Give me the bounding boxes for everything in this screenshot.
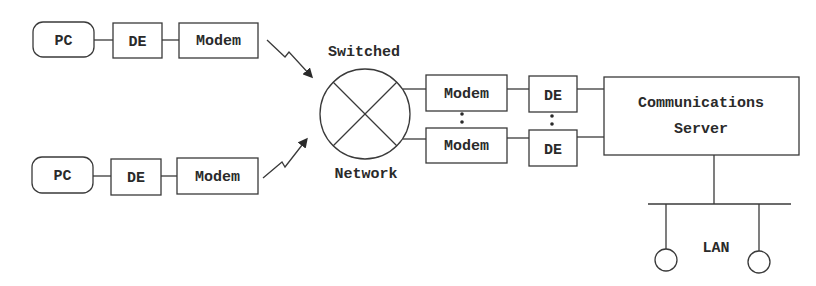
wireless-lightning-arrow-icon-1 [267, 40, 311, 76]
network-label-top: Switched [328, 44, 400, 61]
communications-server: Communications Server [604, 77, 799, 155]
lan-node-icon-2 [748, 251, 770, 273]
remote-site-1: PC DE Modem [33, 22, 258, 58]
modem-ellipsis-icon [460, 112, 464, 124]
lan-label: LAN [702, 240, 729, 257]
switch-circle-x-icon [320, 69, 410, 159]
de-label-2: DE [127, 170, 145, 187]
lan-node-icon-1 [655, 249, 677, 271]
remote-site-2: PC DE Modem [32, 157, 258, 195]
host-de-1: DE [529, 76, 577, 112]
host-de-label-2: DE [544, 142, 562, 159]
server-label-line2: Server [674, 121, 728, 138]
host-modem-2: Modem [426, 128, 507, 163]
wireless-lightning-arrow-icon-2 [263, 140, 306, 178]
host-de-2: DE [529, 130, 577, 166]
host-modem-1: Modem [426, 75, 507, 111]
pc-label-1: PC [54, 33, 72, 50]
server-label-line1: Communications [638, 95, 764, 112]
network-label-bottom: Network [334, 166, 397, 183]
de-label-1: DE [128, 34, 146, 51]
host-modem-label-1: Modem [444, 86, 489, 103]
de-ellipsis-icon [550, 114, 554, 126]
pc-label-2: PC [53, 168, 71, 185]
modem-label-2: Modem [195, 169, 240, 186]
host-modem-label-2: Modem [444, 138, 489, 155]
network-diagram: PC DE Modem PC DE Modem Switched Network… [0, 0, 816, 286]
host-de-label-1: DE [544, 88, 562, 105]
modem-label-1: Modem [196, 33, 241, 50]
